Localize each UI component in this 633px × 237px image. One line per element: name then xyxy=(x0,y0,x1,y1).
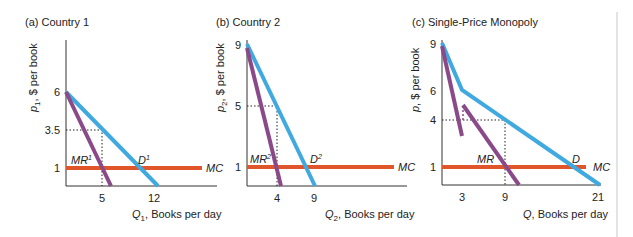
panel-a-mr-line xyxy=(66,92,111,186)
ytick: 6 xyxy=(430,85,436,97)
ytick: 6 xyxy=(54,86,60,98)
panel-c-mr-line-2 xyxy=(463,105,519,185)
figure: (a) Country 1 p1, $ per book 6 3.5 1 5 1… xyxy=(0,0,633,237)
panel-a-ylabel: p1, $ per book xyxy=(27,43,42,113)
ytick: 5 xyxy=(235,100,241,112)
panel-b-mr-label: MR2 xyxy=(250,153,271,165)
panel-a-mc-label: MC xyxy=(206,162,223,174)
panel-c: (c) Single-Price Monopoly p, $ per book … xyxy=(409,16,610,220)
panel-a-demand-line xyxy=(66,92,158,186)
panel-b: (b) Country 2 p2, $ per book 9 5 1 4 9 M… xyxy=(214,16,415,223)
panel-a-d-label: D1 xyxy=(138,154,150,166)
panel-c-mr-label: MR xyxy=(477,153,494,165)
ytick: 1 xyxy=(54,162,60,174)
panel-a-mr-label: MR1 xyxy=(71,154,92,166)
panel-c-mc-label: MC xyxy=(593,161,610,173)
panel-c-mr-line-1 xyxy=(442,46,462,136)
ytick: 4 xyxy=(430,114,436,126)
panel-b-d-label: D2 xyxy=(310,153,322,165)
panel-b-xlabel: Q2, Books per day xyxy=(325,208,415,223)
xtick: 12 xyxy=(148,192,160,204)
panel-b-mc-label: MC xyxy=(398,161,415,173)
ytick: 3.5 xyxy=(45,124,60,136)
xtick: 5 xyxy=(99,192,105,204)
panel-a: (a) Country 1 p1, $ per book 6 3.5 1 5 1… xyxy=(25,16,223,223)
ytick: 1 xyxy=(430,161,436,173)
panel-b-ylabel: p2, $ per book xyxy=(214,43,229,113)
xtick: 21 xyxy=(592,191,604,203)
panel-a-title: (a) Country 1 xyxy=(25,16,89,28)
panel-c-ylabel: p, $ per book xyxy=(409,47,421,113)
panel-c-title: (c) Single-Price Monopoly xyxy=(412,16,538,28)
panel-a-xlabel: Q1, Books per day xyxy=(132,208,222,223)
ytick: 1 xyxy=(235,161,241,173)
xtick: 9 xyxy=(311,192,317,204)
ytick: 9 xyxy=(430,38,436,50)
xtick: 4 xyxy=(274,192,280,204)
panel-b-title: (b) Country 2 xyxy=(216,16,280,28)
xtick: 3 xyxy=(459,191,465,203)
ytick: 9 xyxy=(235,39,241,51)
panel-c-d-label: D xyxy=(572,153,580,165)
panel-c-xlabel: Q, Books per day xyxy=(523,208,608,220)
xtick: 9 xyxy=(502,191,508,203)
